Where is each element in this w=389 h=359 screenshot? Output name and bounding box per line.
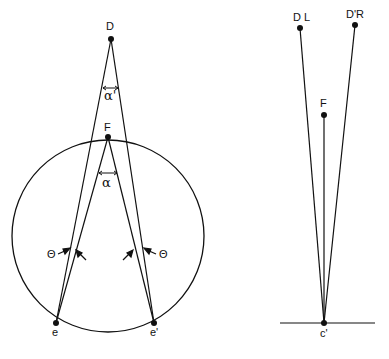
label-F-right: F: [320, 97, 327, 109]
line-F-e-prime: [108, 137, 154, 323]
vieth-muller-circle: [12, 140, 204, 332]
label-DR: D'R: [346, 8, 364, 20]
point-F-right: [321, 112, 327, 118]
point-DR: [352, 22, 358, 28]
label-theta-left: Θ: [47, 248, 56, 260]
line-D-e-prime: [111, 39, 154, 323]
label-e: e: [52, 326, 58, 338]
binocular-geometry-figure: D α' F α Θ Θ e e' D L D'R F c': [0, 0, 389, 359]
line-DL-c: [300, 28, 324, 323]
right-points: [297, 22, 358, 326]
label-e-prime: e': [150, 326, 158, 338]
right-labels: D L D'R F c': [293, 8, 364, 339]
label-alpha-prime: α': [104, 88, 116, 103]
label-D: D: [106, 20, 114, 32]
line-DR-c: [324, 25, 355, 323]
label-c-prime: c': [320, 327, 328, 339]
line-F-e: [56, 137, 108, 323]
theta-arrows: [58, 248, 156, 260]
label-theta-right: Θ: [159, 248, 168, 260]
point-F: [105, 134, 111, 140]
label-alpha: α: [102, 175, 111, 190]
point-D: [108, 36, 114, 42]
label-F: F: [104, 121, 111, 133]
label-DL: D L: [293, 11, 310, 23]
point-DL: [297, 25, 303, 31]
point-c-prime: [321, 320, 327, 326]
right-diagram: [280, 25, 375, 323]
